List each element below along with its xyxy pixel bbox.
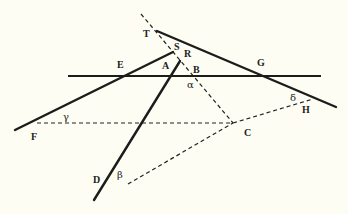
dashed-line-through-B	[141, 14, 233, 123]
point-label-d: D	[93, 174, 100, 185]
point-label-h: H	[302, 104, 310, 115]
point-label-e: E	[117, 59, 124, 70]
point-label-t: T	[143, 28, 150, 39]
angle-label-beta: β	[117, 169, 123, 180]
point-label-f: F	[31, 131, 37, 142]
dashed-line-D-C	[128, 123, 233, 184]
angle-label-alpha: α	[187, 79, 194, 90]
point-label-a: A	[162, 60, 170, 71]
point-label-c: C	[244, 127, 251, 138]
angle-label-gamma: γ	[63, 111, 69, 122]
dashed-line-C-H	[233, 99, 313, 123]
line-T-H	[157, 31, 336, 107]
point-label-b: B	[193, 64, 200, 75]
point-label-g: G	[257, 57, 265, 68]
point-label-s: S	[174, 41, 180, 52]
geometry-diagram: TSRABEGHCFDαβγδ	[0, 0, 348, 214]
point-label-r: R	[184, 48, 192, 59]
angle-label-delta: δ	[290, 92, 296, 103]
line-F-S	[15, 52, 173, 130]
